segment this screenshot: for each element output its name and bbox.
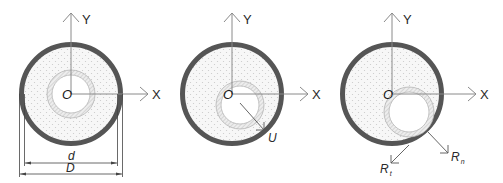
- x-axis-label: X: [480, 87, 489, 102]
- x-axis-label: X: [312, 87, 321, 102]
- outer-diameter-label: D: [66, 161, 75, 175]
- displacement-label: U: [268, 131, 277, 145]
- y-axis-label: Y: [82, 12, 91, 27]
- y-axis-label: Y: [243, 12, 252, 27]
- y-axis-label: Y: [403, 12, 412, 27]
- panel-concentric: Y X O d D: [20, 12, 162, 177]
- tangential-force-label: Rt: [380, 162, 393, 177]
- dimension-arrow-icon: [25, 162, 31, 165]
- dimension-arrow-icon: [116, 173, 122, 176]
- dimension-arrow-icon: [20, 173, 26, 176]
- inner-pipe-bore: [389, 92, 429, 132]
- dimension-arrow-icon: [111, 162, 117, 165]
- normal-force-vector: [428, 132, 448, 153]
- pipe-in-pipe-diagram: Y X O d D Y X O: [0, 0, 503, 183]
- panel-contact: Y X O Rn Rt: [343, 12, 490, 177]
- panel-eccentric: Y X O U: [183, 12, 322, 145]
- origin-label: O: [383, 87, 393, 102]
- x-axis-label: X: [152, 87, 161, 102]
- origin-label: O: [223, 87, 233, 102]
- normal-force-label: Rn: [451, 150, 465, 165]
- tangential-force-vector: [391, 145, 409, 163]
- origin-label: O: [62, 87, 72, 102]
